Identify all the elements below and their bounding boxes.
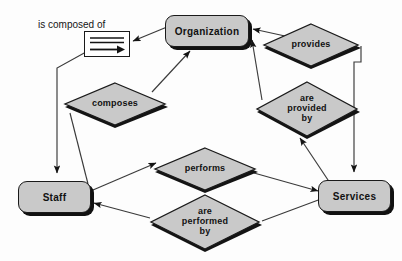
relationship-provides[interactable]: provides: [261, 22, 361, 66]
relationship-composes[interactable]: composes: [62, 81, 168, 125]
entity-staff-label: Staff: [43, 192, 67, 203]
relationship-performs[interactable]: performs: [152, 146, 258, 190]
entity-organization[interactable]: Organization: [165, 15, 249, 47]
entity-staff[interactable]: Staff: [18, 181, 91, 213]
edge-org-to-legend: [133, 27, 167, 41]
er-diagram: Organization Staff Services composes pro…: [0, 0, 402, 261]
edge-services-to-provided-by: [300, 138, 330, 183]
legend-caption: is composed of: [38, 19, 105, 30]
edge-staff-to-performs: [93, 163, 156, 190]
edge-performed-by-to-staff: [94, 203, 150, 218]
aggregation-arrow-icon: [84, 31, 130, 57]
entity-services[interactable]: Services: [318, 180, 391, 212]
edge-performs-to-services: [254, 173, 318, 191]
edge-services-to-performed-by: [262, 199, 321, 221]
relationship-are-performed-by[interactable]: are performed by: [148, 193, 262, 249]
entity-organization-label: Organization: [175, 26, 240, 37]
entity-services-label: Services: [333, 191, 377, 202]
relationship-are-provided-by[interactable]: are provided by: [254, 80, 360, 136]
